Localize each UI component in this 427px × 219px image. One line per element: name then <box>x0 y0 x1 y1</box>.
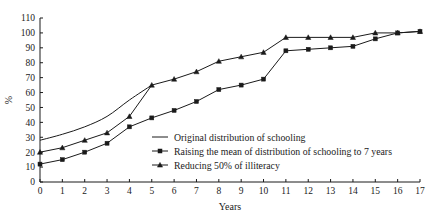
x-tick-label: 11 <box>281 186 290 196</box>
y-tick-label: 20 <box>26 148 36 158</box>
x-tick-label: 1 <box>60 186 65 196</box>
x-tick-label: 3 <box>105 186 110 196</box>
y-tick-label: 90 <box>26 43 36 53</box>
y-tick-label: 10 <box>26 162 36 172</box>
x-tick-label: 8 <box>216 186 221 196</box>
y-tick-label: 40 <box>26 118 36 128</box>
x-tick-label: 7 <box>194 186 199 196</box>
chart-legend: Original distribution of schoolingRaisin… <box>152 132 392 171</box>
x-tick-label: 6 <box>172 186 177 196</box>
y-tick-label: 0 <box>30 177 35 187</box>
y-tick-label: 80 <box>26 58 36 68</box>
y-tick-label: 70 <box>26 73 36 83</box>
x-tick-label: 9 <box>239 186 244 196</box>
x-tick-label: 12 <box>303 186 313 196</box>
legend-item-2: Reducing 50% of illiteracy <box>152 160 280 171</box>
x-axis-title: Years <box>219 201 241 212</box>
x-tick-label: 4 <box>127 186 132 196</box>
x-tick-label: 15 <box>371 186 381 196</box>
legend-item-0: Original distribution of schooling <box>152 132 306 143</box>
legend-label: Original distribution of schooling <box>174 132 306 143</box>
y-tick-label: 110 <box>21 13 35 23</box>
x-tick-label: 5 <box>149 186 154 196</box>
x-tick-label: 10 <box>259 186 269 196</box>
line-chart: 0102030405060708090100110 01234567891011… <box>0 0 427 219</box>
legend-item-1: Raising the mean of distribution of scho… <box>152 146 392 157</box>
x-tick-label: 14 <box>348 186 358 196</box>
y-tick-label: 60 <box>26 88 36 98</box>
y-tick-label: 30 <box>26 133 36 143</box>
x-tick-label: 2 <box>82 186 87 196</box>
x-tick-label: 16 <box>393 186 403 196</box>
legend-label: Reducing 50% of illiteracy <box>174 160 280 171</box>
y-tick-label: 50 <box>26 103 36 113</box>
x-tick-label: 0 <box>38 186 43 196</box>
y-tick-label: 100 <box>21 28 36 38</box>
x-tick-label: 13 <box>326 186 336 196</box>
series-0 <box>40 85 152 140</box>
chart-container: 0102030405060708090100110 01234567891011… <box>0 0 427 219</box>
y-axis-title: % <box>3 96 14 104</box>
x-tick-label: 17 <box>415 186 425 196</box>
legend-label: Raising the mean of distribution of scho… <box>174 146 392 157</box>
